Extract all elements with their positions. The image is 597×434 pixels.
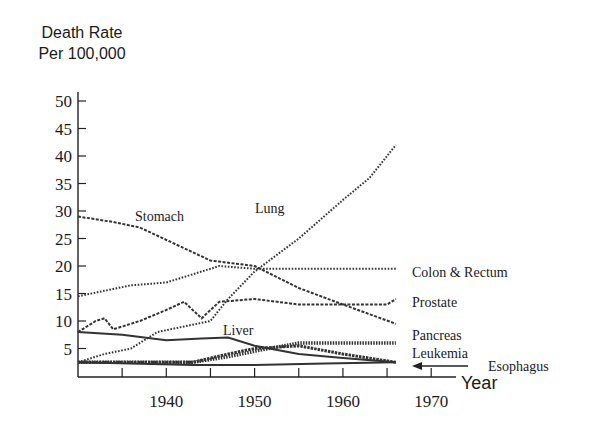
y-axis-title-line1: Death Rate — [42, 24, 123, 41]
series-line-pancreas — [78, 343, 396, 362]
y-ticks: 5101520253035404550 — [55, 92, 86, 359]
label-lung: Lung — [255, 201, 285, 216]
y-axis-title-line2: Per 100,000 — [38, 45, 125, 62]
y-tick-label-10: 10 — [55, 312, 72, 331]
x-tick-label-1960: 1960 — [326, 392, 360, 411]
x-tick-label-1940: 1940 — [149, 392, 183, 411]
label-leukemia: Leukemia — [412, 346, 469, 361]
label-colon-rectum: Colon & Rectum — [412, 265, 508, 280]
death-rate-chart: Death Rate Per 100,000 51015202530354045… — [0, 0, 597, 434]
label-liver: Liver — [223, 323, 254, 338]
label-esophagus: Esophagus — [488, 359, 549, 374]
y-tick-label-45: 45 — [55, 120, 72, 139]
y-tick-label-35: 35 — [55, 175, 72, 194]
label-pancreas: Pancreas — [412, 328, 462, 343]
y-tick-label-15: 15 — [55, 285, 72, 304]
y-tick-label-30: 30 — [55, 202, 72, 221]
label-stomach: Stomach — [135, 209, 184, 224]
x-ticks: 1940195019601970 — [122, 368, 448, 411]
x-axis-title: Year — [461, 373, 497, 393]
y-tick-label-20: 20 — [55, 257, 72, 276]
x-tick-label-1970: 1970 — [414, 392, 448, 411]
y-tick-label-5: 5 — [64, 340, 73, 359]
series-line-stomach — [78, 217, 396, 324]
x-tick-label-1950: 1950 — [238, 392, 272, 411]
series-line-colon-rectum — [78, 266, 396, 296]
y-tick-label-40: 40 — [55, 147, 72, 166]
label-prostate: Prostate — [412, 295, 457, 310]
esophagus-arrow-icon — [412, 362, 468, 370]
y-tick-label-25: 25 — [55, 230, 72, 249]
y-tick-label-50: 50 — [55, 92, 72, 111]
series-line-esophagus — [78, 362, 396, 365]
